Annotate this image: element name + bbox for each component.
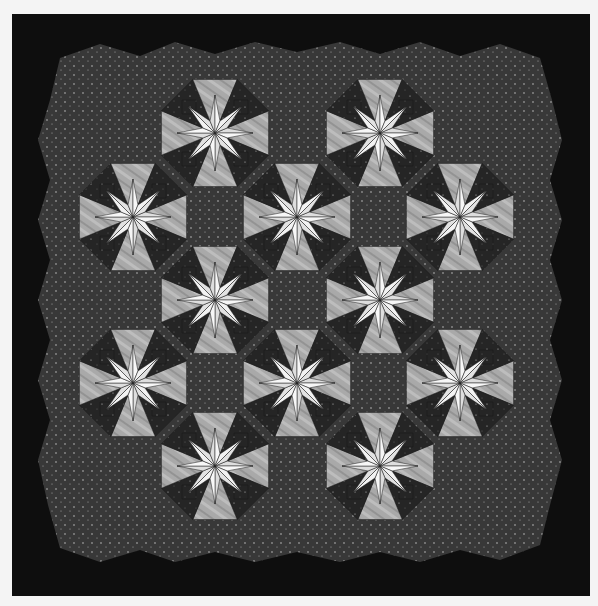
speckled-field: [38, 42, 562, 562]
eight-point-star: [177, 428, 253, 504]
eight-point-star: [342, 428, 418, 504]
eight-point-star: [422, 179, 498, 255]
eight-point-star: [422, 345, 498, 421]
quilt-photo: [12, 14, 590, 596]
eight-point-star: [259, 345, 335, 421]
eight-point-star: [342, 262, 418, 338]
eight-point-star: [342, 95, 418, 171]
eight-point-star: [95, 345, 171, 421]
eight-point-star: [177, 95, 253, 171]
eight-point-star: [177, 262, 253, 338]
eight-point-star: [259, 179, 335, 255]
eight-point-star: [95, 179, 171, 255]
